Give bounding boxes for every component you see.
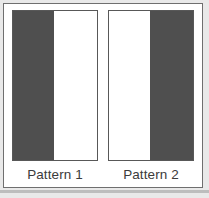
pattern-1-stripe-light	[54, 11, 97, 160]
pattern-comparison-figure: Pattern 1 Pattern 2	[0, 0, 209, 198]
pattern-2-stripe-light	[109, 11, 150, 160]
figure-panel: Pattern 1 Pattern 2	[3, 3, 203, 188]
pattern-2-stripe-dark	[150, 11, 193, 160]
pattern-label-1: Pattern 1	[11, 164, 99, 186]
pattern-label-2: Pattern 2	[107, 164, 195, 186]
bottom-background-fill	[0, 193, 209, 198]
pattern-swatch-2[interactable]	[108, 10, 194, 161]
pattern-1-stripe-dark	[13, 11, 54, 160]
pattern-swatch-1[interactable]	[12, 10, 98, 161]
